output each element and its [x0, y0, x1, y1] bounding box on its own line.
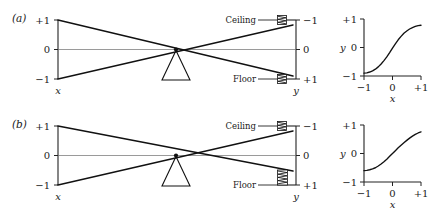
panel-a-right-label-minus1: −1 [303, 15, 318, 26]
panel-b-ceiling-spring [278, 122, 287, 131]
panel-a-fulcrum-triangle [162, 51, 190, 81]
panel-b-right-label-minus1: −1 [303, 121, 318, 132]
panel-a-left-label-zero: 0 [44, 44, 50, 55]
panel-b-left-label-minus1: −1 [35, 180, 50, 191]
panel-b-plot-xlabel-minus1: −1 [357, 188, 372, 199]
panel-a-plot-y-axis-title: y [339, 42, 346, 53]
panel-b-plot-xlabel-zero: 0 [389, 188, 395, 199]
panel-b-plot-y-axis-title: y [339, 148, 346, 159]
panel-b-fulcrum-triangle [162, 157, 190, 187]
panel-b-left-label-zero: 0 [44, 150, 50, 161]
panel-b-right-axis-var: y [292, 191, 299, 202]
panel-b-plot-xlabel-plus1: +1 [414, 188, 429, 199]
panel-b-right-label-zero: 0 [303, 150, 309, 161]
panel-a-left-label-minus1: −1 [35, 74, 50, 85]
panel-a-floor-spring [278, 75, 287, 84]
panel-b-ceiling-label: Ceiling [225, 121, 256, 131]
panel-b-floor-label: Floor [233, 180, 257, 190]
panel-b-floor-spring [278, 170, 288, 185]
panel-b-transfer-curve [364, 132, 421, 171]
panel-b-lever-diagram: +1 0 −1 x −1 0 +1 y Ceiling [35, 121, 318, 203]
panel-a-left-label-plus1: +1 [35, 15, 50, 26]
panel-a-ceiling-label: Ceiling [225, 15, 256, 25]
panel-b-plot-ylabel-minus1: −1 [342, 177, 357, 188]
panel-a-right-axis-var: y [292, 85, 299, 96]
panel-b-plot-ylabel-zero: 0 [351, 148, 357, 159]
lever-transfer-function-figure: (a) +1 0 −1 x −1 0 +1 y [0, 0, 433, 213]
panel-a-right-label-plus1: +1 [303, 74, 318, 85]
panel-b: (b) +1 0 −1 x −1 0 +1 y C [12, 118, 428, 210]
panel-a-left-axis-var: x [55, 85, 61, 96]
panel-a-plot-ylabel-plus1: +1 [342, 14, 357, 25]
panel-a-plot-ylabel-minus1: −1 [342, 71, 357, 82]
panel-a-transfer-curve [364, 25, 421, 73]
panel-a-plot-xlabel-minus1: −1 [357, 82, 372, 93]
panel-b-plot-ylabel-plus1: +1 [342, 120, 357, 131]
panel-a-floor-label: Floor [233, 74, 257, 84]
panel-a-ceiling-spring [278, 16, 287, 25]
panel-b-tag: (b) [12, 118, 27, 130]
panel-a-lever-diagram: +1 0 −1 x −1 0 +1 y Ceiling [35, 15, 318, 97]
panel-b-transfer-plot: +1 0 −1 y −1 0 +1 x [339, 120, 428, 211]
panel-b-lever-arm-descending [58, 126, 293, 171]
panel-a-plot-ylabel-zero: 0 [351, 42, 357, 53]
panel-a-right-label-zero: 0 [303, 44, 309, 55]
panel-b-left-label-plus1: +1 [35, 121, 50, 132]
panel-a-plot-xlabel-zero: 0 [389, 82, 395, 93]
panel-a-tag: (a) [12, 12, 26, 24]
panel-a-transfer-plot: +1 0 −1 y −1 0 +1 x [339, 14, 428, 105]
panel-b-right-label-plus1: +1 [303, 180, 318, 191]
panel-a-plot-xlabel-plus1: +1 [414, 82, 429, 93]
panel-b-left-axis-var: x [55, 191, 61, 202]
panel-a-plot-x-axis-title: x [390, 93, 396, 104]
panel-b-plot-x-axis-title: x [390, 199, 396, 210]
panel-a: (a) +1 0 −1 x −1 0 +1 y [12, 12, 428, 104]
